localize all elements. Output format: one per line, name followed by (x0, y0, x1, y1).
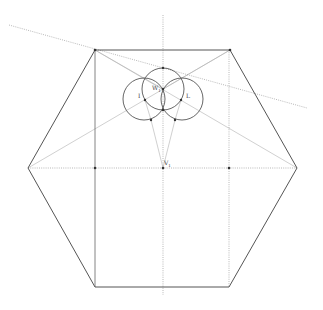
geometric-diagram: W1 I L V1 (0, 0, 323, 310)
point-l (180, 99, 182, 101)
circle-left (123, 78, 165, 120)
construction-line (163, 50, 230, 89)
point-bottom-left (150, 119, 152, 121)
points (94, 49, 232, 170)
point-circle-top (162, 67, 164, 69)
point-i (144, 99, 146, 101)
dotted-axes (9, 15, 307, 295)
circle-right (161, 78, 203, 120)
point-mid-right (228, 167, 231, 170)
label-v1: V1 (163, 159, 171, 168)
construction-line (151, 120, 163, 168)
point-top-right (229, 49, 232, 52)
point-bottom-right (174, 119, 176, 121)
point-center (162, 167, 165, 170)
construction-line (175, 100, 181, 120)
slanted-dotted-line (9, 25, 307, 108)
point-mid-left (94, 167, 97, 170)
point-top-left (94, 49, 97, 52)
point-w1 (162, 88, 164, 90)
label-l: L (186, 92, 190, 99)
label-i: I (138, 92, 141, 99)
point-circle-bottom (162, 109, 164, 111)
construction-line (145, 100, 151, 120)
